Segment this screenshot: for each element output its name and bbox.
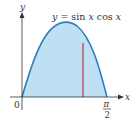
x-axis-label: x bbox=[125, 92, 130, 102]
y-axis-arrow-icon bbox=[20, 12, 25, 18]
svg-text:2: 2 bbox=[105, 110, 110, 120]
x-axis-arrow-icon bbox=[118, 95, 124, 100]
equation-label: y = sin x cos x bbox=[51, 11, 122, 22]
svg-text:π: π bbox=[103, 99, 110, 109]
area-chart: y = sin x cos x y x 0 π 2 bbox=[0, 0, 133, 122]
pi-over-2-label: π 2 bbox=[103, 99, 112, 120]
y-axis-label: y bbox=[19, 2, 26, 12]
origin-label: 0 bbox=[14, 100, 20, 110]
